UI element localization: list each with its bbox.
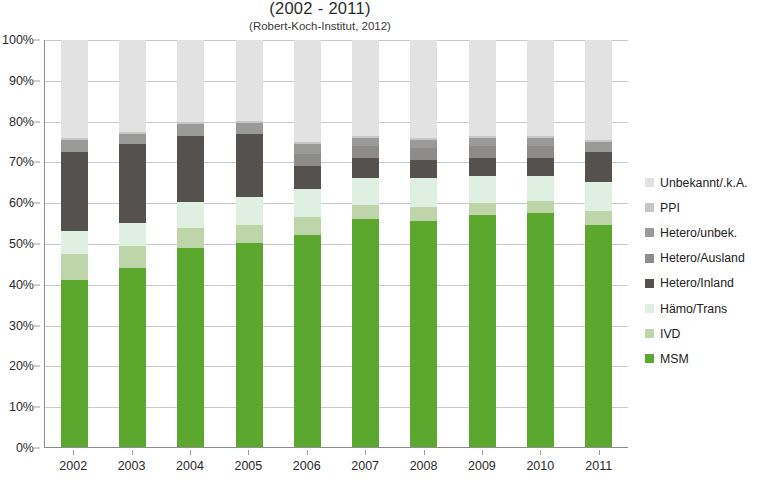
bar-segment-msm[interactable] [177, 248, 204, 447]
bar-group[interactable] [397, 40, 452, 447]
bar-segment-hetero-inland[interactable] [61, 152, 88, 231]
bar-group[interactable] [513, 40, 568, 447]
y-tick-label: 30% [9, 319, 34, 333]
bar-segment-unbekannt-k-a[interactable] [352, 40, 379, 136]
bar-segment-hetero-inland[interactable] [585, 152, 612, 183]
bar-group[interactable] [338, 40, 393, 447]
y-tick-label: 90% [9, 74, 34, 88]
legend-item[interactable]: MSM [645, 346, 772, 371]
bar-segment-hetero-unbek[interactable] [469, 138, 496, 146]
bar-stack[interactable] [585, 40, 612, 447]
bar-segment-hetero-unbek[interactable] [119, 134, 146, 144]
bar-stack[interactable] [119, 40, 146, 447]
bar-segment-h-mo-trans[interactable] [294, 189, 321, 217]
bar-segment-ivd[interactable] [352, 205, 379, 219]
legend-item[interactable]: Hetero/unbek. [645, 220, 772, 245]
bar-segment-h-mo-trans[interactable] [177, 202, 204, 228]
bar-segment-hetero-ausland[interactable] [469, 146, 496, 158]
bar-stack[interactable] [410, 40, 437, 447]
legend-item[interactable]: IVD [645, 321, 772, 346]
bar-segment-unbekannt-k-a[interactable] [410, 40, 437, 138]
bar-segment-hetero-inland[interactable] [352, 158, 379, 178]
bar-segment-ivd[interactable] [119, 246, 146, 268]
legend-item[interactable]: Hetero/Ausland [645, 246, 772, 271]
bar-segment-hetero-unbek[interactable] [177, 124, 204, 136]
bar-group[interactable] [163, 40, 218, 447]
plot-area [44, 40, 628, 448]
bar-segment-msm[interactable] [119, 268, 146, 447]
bar-segment-h-mo-trans[interactable] [352, 178, 379, 204]
bar-segment-ivd[interactable] [177, 228, 204, 248]
bar-segment-msm[interactable] [352, 219, 379, 447]
bar-segment-unbekannt-k-a[interactable] [294, 40, 321, 142]
bar-segment-hetero-unbek[interactable] [294, 144, 321, 154]
bar-group[interactable] [571, 40, 626, 447]
bar-stack[interactable] [294, 40, 321, 447]
bar-segment-ivd[interactable] [236, 225, 263, 243]
bar-group[interactable] [280, 40, 335, 447]
legend: Unbekannt/.k.A.PPIHetero/unbek.Hetero/Au… [645, 170, 772, 372]
bar-segment-h-mo-trans[interactable] [469, 176, 496, 202]
bar-segment-hetero-unbek[interactable] [61, 140, 88, 152]
bar-segment-h-mo-trans[interactable] [119, 223, 146, 245]
bar-segment-hetero-inland[interactable] [294, 166, 321, 188]
y-tick-mark [34, 284, 40, 285]
bar-segment-unbekannt-k-a[interactable] [527, 40, 554, 136]
bar-segment-hetero-ausland[interactable] [527, 146, 554, 158]
bar-segment-h-mo-trans[interactable] [236, 197, 263, 225]
bar-group[interactable] [105, 40, 160, 447]
bar-stack[interactable] [177, 40, 204, 447]
bar-stack[interactable] [61, 40, 88, 447]
bar-segment-ivd[interactable] [410, 207, 437, 221]
legend-item[interactable]: Unbekannt/.k.A. [645, 170, 772, 195]
bar-segment-h-mo-trans[interactable] [410, 178, 437, 206]
bar-segment-msm[interactable] [585, 225, 612, 447]
bar-segment-hetero-unbek[interactable] [585, 142, 612, 152]
bar-segment-hetero-ausland[interactable] [294, 154, 321, 166]
bar-segment-hetero-unbek[interactable] [527, 138, 554, 146]
bar-segment-msm[interactable] [410, 221, 437, 447]
bar-segment-msm[interactable] [469, 215, 496, 447]
bar-segment-hetero-inland[interactable] [236, 134, 263, 197]
bar-segment-hetero-inland[interactable] [469, 158, 496, 176]
bar-segment-hetero-inland[interactable] [177, 136, 204, 201]
bar-segment-ivd[interactable] [294, 217, 321, 235]
legend-item[interactable]: PPI [645, 195, 772, 220]
bar-stack[interactable] [352, 40, 379, 447]
bar-segment-unbekannt-k-a[interactable] [585, 40, 612, 140]
bar-segment-hetero-inland[interactable] [119, 144, 146, 223]
bar-segment-ivd[interactable] [469, 203, 496, 215]
bar-segment-ivd[interactable] [527, 201, 554, 213]
bar-segment-unbekannt-k-a[interactable] [236, 40, 263, 121]
bar-segment-h-mo-trans[interactable] [527, 176, 554, 200]
bar-segment-hetero-ausland[interactable] [410, 148, 437, 160]
bar-stack[interactable] [527, 40, 554, 447]
bar-segment-hetero-unbek[interactable] [352, 138, 379, 146]
bar-segment-unbekannt-k-a[interactable] [119, 40, 146, 132]
bar-stack[interactable] [469, 40, 496, 447]
bar-segment-msm[interactable] [527, 213, 554, 447]
bar-group[interactable] [222, 40, 277, 447]
bar-segment-h-mo-trans[interactable] [61, 231, 88, 253]
bar-stack[interactable] [236, 40, 263, 447]
bar-group[interactable] [455, 40, 510, 447]
bar-segment-hetero-inland[interactable] [527, 158, 554, 176]
bar-segment-msm[interactable] [236, 243, 263, 447]
bar-segment-msm[interactable] [294, 235, 321, 447]
legend-item[interactable]: Hämo/Trans [645, 296, 772, 321]
legend-label: PPI [660, 201, 680, 215]
bar-segment-msm[interactable] [61, 280, 88, 447]
bar-segment-unbekannt-k-a[interactable] [177, 40, 204, 122]
bar-group[interactable] [47, 40, 102, 447]
bar-segment-hetero-inland[interactable] [410, 160, 437, 178]
bar-segment-ivd[interactable] [61, 254, 88, 280]
chart-title: (2002 - 2011) [0, 0, 640, 17]
bar-segment-h-mo-trans[interactable] [585, 182, 612, 210]
legend-item[interactable]: Hetero/Inland [645, 271, 772, 296]
bar-segment-unbekannt-k-a[interactable] [61, 40, 88, 138]
bar-segment-hetero-ausland[interactable] [352, 146, 379, 158]
bar-segment-hetero-unbek[interactable] [236, 123, 263, 133]
bar-segment-unbekannt-k-a[interactable] [469, 40, 496, 136]
bar-segment-ivd[interactable] [585, 211, 612, 225]
bar-segment-hetero-unbek[interactable] [410, 140, 437, 148]
